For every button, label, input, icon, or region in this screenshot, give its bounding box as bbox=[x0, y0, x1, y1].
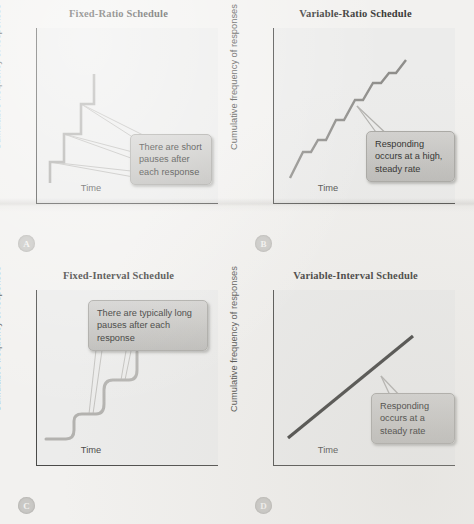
panel-badge-d: D bbox=[255, 497, 272, 514]
panel-badge-b: B bbox=[255, 235, 272, 252]
callout-d: Responding occurs at a steady rate bbox=[371, 393, 455, 444]
panel-fixed-interval: Fixed-Interval Schedule There are typica… bbox=[0, 262, 237, 524]
panel-badge-c: C bbox=[18, 497, 35, 514]
x-axis-label-c: Time bbox=[0, 445, 182, 455]
panel-fixed-ratio: Fixed-Ratio Schedule There are short pau… bbox=[0, 0, 237, 262]
x-axis-label-d: Time bbox=[237, 445, 419, 455]
panel-title-d: Variable-Interval Schedule bbox=[237, 270, 474, 281]
plot-d: Responding occurs at a steady rate bbox=[273, 290, 455, 466]
callout-c: There are typically long pauses after ea… bbox=[88, 300, 208, 351]
callout-a: There are short pauses after each respon… bbox=[130, 134, 212, 185]
y-axis-label-c: Cumulative frequency of responses bbox=[0, 214, 2, 464]
plot-b: Responding occurs at a high, steady rate bbox=[273, 28, 455, 204]
y-axis-label-b: Cumulative frequency of responses bbox=[229, 0, 239, 202]
callout-b: Responding occurs at a high, steady rate bbox=[366, 131, 455, 182]
plot-a: There are short pauses after each respon… bbox=[36, 28, 218, 204]
plot-c: There are typically long pauses after ea… bbox=[36, 290, 218, 466]
panel-variable-interval: Variable-Interval Schedule Responding oc… bbox=[237, 262, 474, 524]
schedules-figure-grid: Fixed-Ratio Schedule There are short pau… bbox=[0, 0, 474, 524]
y-axis-label-d: Cumulative frequency of responses bbox=[229, 214, 239, 464]
x-axis-label-b: Time bbox=[237, 183, 419, 193]
panel-variable-ratio: Variable-Ratio Schedule Responding occur… bbox=[237, 0, 474, 262]
y-axis-label-a: Cumulative frequency of responses bbox=[0, 0, 2, 202]
panel-title-b: Variable-Ratio Schedule bbox=[237, 8, 474, 19]
panel-title-c: Fixed-Interval Schedule bbox=[0, 270, 237, 281]
panel-badge-a: A bbox=[18, 235, 35, 252]
panel-title-a: Fixed-Ratio Schedule bbox=[0, 8, 237, 19]
